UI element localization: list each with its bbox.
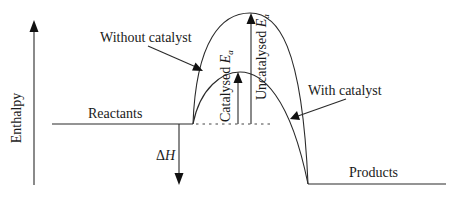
delta-h-arrow	[175, 124, 184, 185]
products-label: Products	[349, 165, 398, 180]
catalysed-ea-label: Catalysed Ea	[218, 50, 235, 122]
enthalpy-axis	[30, 20, 39, 185]
without-catalyst-pointer	[148, 46, 203, 71]
arrowhead-icon	[175, 173, 184, 185]
catalysed-ea-arrow	[234, 72, 243, 124]
arrowhead-icon	[290, 111, 300, 120]
with-catalyst-label: With catalyst	[308, 83, 382, 98]
arrowhead-icon	[234, 72, 243, 83]
uncatalysed-ea-label: Uncatalysed Ea	[254, 14, 271, 100]
delta-h-label: ΔH	[156, 148, 176, 163]
y-axis-label: Enthalpy	[9, 93, 24, 144]
reactants-label: Reactants	[88, 106, 142, 121]
with-catalyst-pointer	[290, 99, 346, 120]
energy-profile-diagram: Enthalpy Reactants Products Uncatalysed …	[0, 0, 456, 200]
axis-arrowhead-icon	[30, 20, 39, 32]
without-catalyst-label: Without catalyst	[100, 30, 192, 45]
